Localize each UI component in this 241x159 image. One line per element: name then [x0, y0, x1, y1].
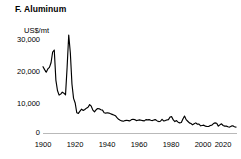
y-tick-label-20000: 20,000: [6, 67, 40, 76]
x-tick-label-1920: 1920: [60, 140, 90, 149]
x-tick-label-1960: 1960: [124, 140, 154, 149]
y-tick-label-10000: 10,000: [6, 99, 40, 108]
aluminum-price-series: [43, 35, 236, 133]
series-line: [43, 35, 236, 127]
x-tick-label-2020: 2020: [208, 140, 238, 149]
y-tick-label-30000: 30,000: [6, 35, 40, 44]
x-tick-label-1900: 1900: [28, 140, 58, 149]
x-tick-label-1980: 1980: [156, 140, 186, 149]
plot-area: [43, 35, 236, 133]
y-tick-label-0: 0: [6, 128, 40, 137]
x-tick-label-1940: 1940: [92, 140, 122, 149]
aluminum-price-chart-figure: F. Aluminum US$/mt 30,000 20,000 10,000 …: [0, 0, 241, 159]
plot-wrapper: 30,000 20,000 10,000 0 1900 1920 1940 19…: [0, 0, 241, 159]
